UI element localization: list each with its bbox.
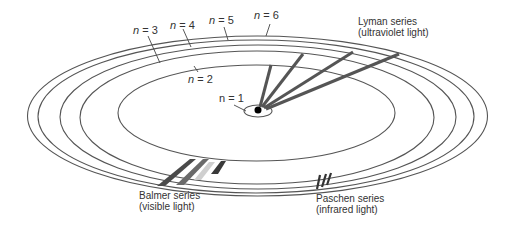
orbit-n6 (28, 36, 488, 196)
nucleus (255, 107, 262, 114)
atom-diagram (0, 0, 512, 225)
balmer-label: Balmer series (visible light) (139, 190, 200, 212)
label-n5: n = 5 (209, 14, 234, 26)
paschen-transitions (317, 173, 331, 189)
paschen-label: Paschen series (infrared light) (316, 193, 384, 215)
lyman-label: Lyman series (ultraviolet light) (358, 16, 429, 38)
lyman-transitions (260, 52, 399, 109)
label-n6: n = 6 (254, 9, 279, 21)
label-n4: n = 4 (170, 19, 195, 31)
label-n1: n = 1 (219, 92, 244, 104)
label-n2: n = 2 (188, 73, 213, 85)
label-n3: n = 3 (133, 24, 158, 36)
